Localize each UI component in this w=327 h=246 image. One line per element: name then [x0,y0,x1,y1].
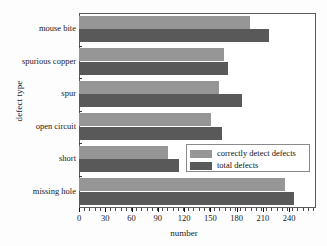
legend-label-total-defects: total defects [217,161,258,170]
x-axis-major-tick [237,208,238,212]
legend-item-correctly-detect-defects: correctly detect defects [190,148,306,159]
x-axis-minor-tick [147,208,148,211]
y-axis-tick-label: mouse bite [0,23,76,33]
x-axis-minor-tick [204,208,205,211]
x-axis-minor-tick [95,208,96,211]
legend-label-correctly-detect-defects: correctly detect defects [217,149,296,158]
y-axis-tick-mark [79,143,82,144]
x-axis-ticks [79,208,316,212]
x-axis-major-tick [184,208,185,212]
x-axis-minor-tick [167,208,168,211]
x-axis-major-tick [105,208,106,212]
legend-item-total-defects: total defects [190,160,306,171]
x-axis-minor-tick [193,208,194,211]
x-axis-major-tick [263,208,264,212]
bar-correctly-detect-defects [79,48,224,61]
x-axis-minor-tick [282,208,283,211]
bar-total-defects [79,159,179,172]
chart-legend: correctly detect defects total defects [186,144,310,172]
x-axis-tick-label: 240 [274,213,304,223]
y-axis-tick-label: spurious copper [0,56,76,66]
y-axis-title: defect type [14,56,24,146]
bar-correctly-detect-defects [79,16,250,29]
y-axis-tick-label: short [0,153,76,163]
x-axis-minor-tick [100,208,101,211]
y-axis-tick-label: open circuit [0,121,76,131]
x-axis-minor-tick [313,208,314,211]
bar-group [79,13,316,46]
y-axis-tick-mark [79,46,82,47]
bar-total-defects [79,62,228,75]
x-axis-minor-tick [162,208,163,211]
x-axis-minor-tick [219,208,220,211]
bar-group [79,176,316,209]
x-axis-minor-tick [266,208,267,211]
x-axis-minor-tick [136,208,137,211]
x-axis-minor-tick [173,208,174,211]
x-axis-minor-tick [303,208,304,211]
x-axis-minor-tick [245,208,246,211]
x-axis-minor-tick [115,208,116,211]
y-axis-tick-mark [79,78,82,79]
y-axis-tick-mark [79,176,82,177]
x-axis-minor-tick [287,208,288,211]
x-axis-minor-tick [126,208,127,211]
x-axis-major-tick [158,208,159,212]
bar-correctly-detect-defects [79,146,168,159]
x-axis-minor-tick [277,208,278,211]
y-axis-tick-mark [79,111,82,112]
x-axis-minor-tick [89,208,90,211]
chart-figure: defect type missing holeshortopen circui… [0,0,327,246]
x-axis-minor-tick [152,208,153,211]
x-axis-minor-tick [121,208,122,211]
x-axis-minor-tick [84,208,85,211]
x-axis-minor-tick [240,208,241,211]
x-axis-minor-tick [292,208,293,211]
x-axis-title: number [79,228,289,238]
x-axis-minor-tick [308,208,309,211]
x-axis-minor-tick [271,208,272,211]
bar-correctly-detect-defects [79,178,285,191]
bar-total-defects [79,94,242,107]
x-axis-minor-tick [110,208,111,211]
bar-correctly-detect-defects [79,113,211,126]
x-axis-minor-tick [251,208,252,211]
x-axis-major-tick [132,208,133,212]
x-axis-minor-tick [199,208,200,211]
bar-group [79,78,316,111]
legend-swatch-total-defects [190,162,212,170]
bar-group [79,111,316,144]
y-axis-tick-label: missing hole [0,186,76,196]
bar-total-defects [79,192,294,205]
x-axis-minor-tick [178,208,179,211]
bar-total-defects [79,127,222,140]
x-axis-minor-tick [230,208,231,211]
x-axis-minor-tick [256,208,257,211]
x-axis-minor-tick [188,208,189,211]
legend-swatch-correctly-detect-defects [190,150,212,158]
x-axis-major-tick [210,208,211,212]
bar-group [79,46,316,79]
y-axis-tick-label: spur [0,88,76,98]
bar-total-defects [79,29,269,42]
x-axis-minor-tick [141,208,142,211]
bar-correctly-detect-defects [79,81,219,94]
x-axis-minor-tick [297,208,298,211]
x-axis-minor-tick [214,208,215,211]
x-axis-minor-tick [225,208,226,211]
x-axis-major-tick [79,208,80,212]
x-axis-major-tick [289,208,290,212]
